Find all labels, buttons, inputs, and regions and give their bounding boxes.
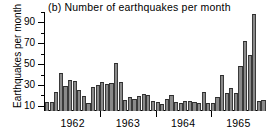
y-tick-minor-40 (41, 75, 44, 76)
bar (151, 101, 155, 111)
bar (238, 66, 242, 111)
bar (165, 99, 169, 112)
bar (68, 80, 72, 111)
earthquake-bar-chart-figure: (b) Number of earthquakes per month Eart… (0, 0, 271, 137)
bar (179, 103, 183, 111)
bar (109, 83, 113, 111)
bar (100, 82, 104, 111)
y-tick-minor-100 (41, 12, 44, 13)
bar (45, 102, 49, 111)
bar (156, 102, 160, 111)
bar (142, 94, 146, 111)
bar (252, 14, 256, 111)
bar (261, 100, 265, 111)
y-tick-label-90: 90 (13, 16, 35, 28)
y-tick-label-50: 50 (13, 58, 35, 70)
bar (206, 103, 210, 111)
bar (183, 101, 187, 111)
y-tick-label-30: 30 (13, 79, 35, 91)
bar (132, 99, 136, 112)
bar (229, 88, 233, 111)
y-tick-major-70 (38, 43, 44, 44)
y-tick-minor-80 (41, 33, 44, 34)
bar (50, 102, 54, 111)
bar (257, 101, 261, 111)
bar (77, 90, 81, 111)
y-tick-label-70: 70 (13, 37, 35, 49)
y-tick-major-90 (38, 22, 44, 23)
bar (160, 104, 164, 111)
bar (86, 103, 90, 111)
bar (192, 102, 196, 111)
bar (128, 97, 132, 111)
bar (169, 95, 173, 111)
bar (82, 96, 86, 111)
bar (225, 93, 229, 111)
bar (188, 101, 192, 111)
bar (54, 92, 58, 111)
bar (211, 103, 215, 111)
bar (243, 41, 247, 111)
bar (146, 95, 150, 111)
bar (174, 102, 178, 111)
bar (123, 100, 127, 111)
bar (197, 103, 201, 111)
bar (73, 81, 77, 111)
bar (59, 73, 63, 111)
bar-series (45, 12, 266, 111)
x-axis-label-1965: 1965 (216, 116, 260, 130)
bar (202, 92, 206, 111)
y-tick-major-30 (38, 85, 44, 86)
y-tick-major-50 (38, 64, 44, 65)
bar (63, 86, 67, 111)
bar (248, 55, 252, 111)
y-tick-major-10 (38, 106, 44, 107)
bar (215, 97, 219, 111)
x-axis-label-1962: 1962 (51, 116, 95, 130)
bar (91, 87, 95, 111)
bar (137, 96, 141, 111)
bar (96, 85, 100, 111)
bar (114, 63, 118, 111)
x-axis-label-1964: 1964 (161, 116, 205, 130)
bar (119, 82, 123, 111)
bar (220, 75, 224, 111)
y-tick-label-10: 10 (13, 100, 35, 112)
y-tick-minor-60 (41, 54, 44, 55)
y-tick-minor-20 (41, 95, 44, 96)
bar (105, 84, 109, 111)
x-axis-label-1963: 1963 (106, 116, 150, 130)
bar (234, 93, 238, 111)
